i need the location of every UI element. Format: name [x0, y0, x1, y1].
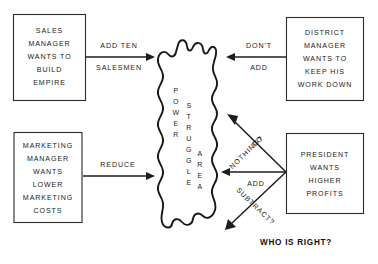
box-president-outline: [287, 134, 364, 214]
box-district-manager-line-2: MANAGER: [304, 42, 346, 50]
arrow-add-ten-salesmen-label-2: SALESMEN: [96, 64, 142, 72]
box-marketing-manager-line-5: MARKETING: [23, 194, 73, 202]
box-sales-manager-line-5: EMPIRE: [33, 79, 66, 87]
arrow-add-label: ADD: [247, 180, 265, 188]
svg-text:T: T: [187, 113, 192, 120]
box-district-manager-line-5: WORK DOWN: [298, 81, 353, 89]
svg-text:E: E: [186, 179, 191, 186]
box-marketing-manager-line-1: MARKETING: [23, 142, 73, 150]
caption-who-is-right: WHO IS RIGHT?: [260, 238, 332, 247]
arrow-dont-add-label-1: DON'T: [246, 42, 272, 50]
box-president-line-2: WANTS: [310, 164, 340, 172]
power-struggle-diagram: SALES MANAGER WANTS TO BUILD EMPIRE DIST…: [0, 0, 378, 264]
svg-text:A: A: [197, 183, 202, 190]
box-president[interactable]: PRESIDENT WANTS HIGHER PROFITS: [287, 134, 364, 214]
box-sales-manager-line-4: BUILD: [37, 66, 62, 74]
box-president-line-4: PROFITS: [306, 190, 343, 198]
svg-text:P: P: [173, 87, 178, 94]
svg-text:A: A: [197, 150, 202, 157]
box-sales-manager-line-2: MANAGER: [28, 40, 70, 48]
box-marketing-manager-line-6: COSTS: [34, 207, 63, 215]
box-district-manager[interactable]: DISTRICT MANAGER WANTS TO KEEP HIS WORK …: [287, 18, 364, 101]
box-district-manager-line-4: KEEP HIS: [305, 68, 345, 76]
box-sales-manager-line-1: SALES: [36, 27, 63, 35]
box-marketing-manager[interactable]: MARKETING MANAGER WANTS LOWER MARKETING …: [14, 133, 82, 223]
svg-text:R: R: [197, 161, 203, 168]
svg-text:R: R: [186, 124, 192, 131]
svg-text:E: E: [197, 172, 202, 179]
svg-text:G: G: [186, 157, 192, 164]
power-struggle-blob-outline: [158, 40, 217, 227]
box-marketing-manager-line-4: LOWER: [33, 181, 64, 189]
box-marketing-manager-line-3: WANTS: [33, 168, 63, 176]
svg-text:R: R: [173, 131, 179, 138]
box-sales-manager-line-3: WANTS TO: [27, 53, 71, 61]
box-district-manager-line-3: WANTS TO: [303, 55, 347, 63]
box-president-line-3: HIGHER: [309, 177, 342, 185]
svg-text:O: O: [173, 98, 179, 105]
box-sales-manager[interactable]: SALES MANAGER WANTS TO BUILD EMPIRE: [14, 15, 86, 101]
svg-text:W: W: [172, 109, 179, 116]
box-district-manager-line-1: DISTRICT: [305, 29, 345, 37]
arrow-reduce-label: REDUCE: [100, 161, 135, 169]
box-president-line-1: PRESIDENT: [301, 151, 350, 159]
arrow-dont-add-label-2: ADD: [250, 64, 268, 72]
svg-text:G: G: [186, 146, 192, 153]
box-marketing-manager-line-2: MANAGER: [27, 155, 69, 163]
svg-text:U: U: [186, 135, 192, 142]
svg-text:L: L: [187, 168, 191, 175]
arrow-add-ten-salesmen-label-1: ADD TEN: [100, 42, 137, 50]
svg-text:E: E: [173, 120, 178, 127]
svg-text:S: S: [186, 102, 191, 109]
